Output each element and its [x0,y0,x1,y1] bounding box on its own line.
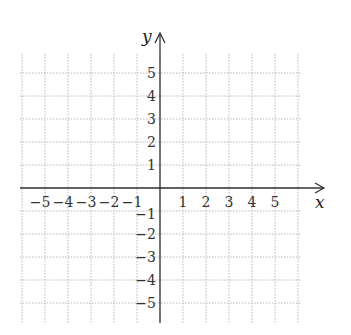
y-tick-label: 1 [147,157,156,173]
x-tick-label: 1 [179,194,188,210]
x-tick-label: −4 [53,194,74,210]
y-tick-label: −4 [135,272,156,288]
y-tick-label: 5 [147,65,156,81]
y-axis-label: y [141,26,152,46]
y-tick-label: 4 [147,88,156,104]
x-tick-label: −5 [30,194,51,210]
x-axis-label: x [315,192,325,212]
x-tick-label: −2 [99,194,120,210]
x-tick-label: 5 [271,194,280,210]
x-tick-label: 2 [202,194,211,210]
y-tick-label: 2 [147,134,156,150]
y-tick-label: 3 [147,111,156,127]
coordinate-plane: −5−4−3−2−112345 54321−1−2−3−4−5 x y [0,0,351,335]
y-tick-label: −3 [135,249,156,265]
y-tick-label: −5 [135,295,156,311]
y-tick-label: −2 [135,226,156,242]
x-tick-label: −3 [76,194,97,210]
x-tick-label: 3 [225,194,234,210]
x-tick-label: 4 [248,194,257,210]
y-tick-label: −1 [135,206,156,222]
